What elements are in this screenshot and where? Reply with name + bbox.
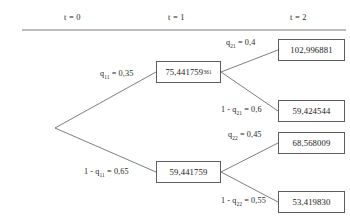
edge-label-down-dd: 1 - q22 = 0,55 <box>221 196 266 205</box>
header-t0: t = 0 <box>64 12 81 22</box>
binomial-tree-figure: t = 0 t = 1 t = 2 75,441759361 59,441759… <box>0 0 350 222</box>
edge-label-up-uu: q21 = 0,4 <box>226 38 255 47</box>
node-du2-value: 68,568009 <box>293 138 331 148</box>
edge-up-uu <box>221 50 278 72</box>
edge-label-down-dd-suffix: = 0,55 <box>242 196 266 205</box>
edge-root-down <box>55 128 156 172</box>
edge-label-root-down-prefix: 1 - q <box>84 167 100 176</box>
edge-label-down-dd-prefix: 1 - q <box>221 196 237 205</box>
node-down1-value: 59,441759 <box>170 167 208 177</box>
edge-down-du <box>221 143 278 172</box>
node-uu2-value: 102,996881 <box>290 45 332 55</box>
edge-label-up-uu-suffix: = 0,4 <box>236 38 256 47</box>
edge-root-up <box>55 72 156 128</box>
edge-label-root-up-suffix: = 0,35 <box>110 69 134 78</box>
edge-label-down-du: q22 = 0,45 <box>228 130 262 139</box>
node-dd2[interactable]: 53,419830 <box>278 191 345 213</box>
edge-label-up-ud: 1 - q21 = 0,6 <box>221 105 262 114</box>
edge-label-root-up: q11 = 0,35 <box>100 69 133 78</box>
node-ud2-value: 59,424544 <box>293 106 331 116</box>
edge-label-down-du-suffix: = 0,45 <box>238 130 262 139</box>
node-down1[interactable]: 59,441759 <box>156 161 221 183</box>
edge-label-up-ud-suffix: = 0,6 <box>242 105 262 114</box>
node-uu2[interactable]: 102,996881 <box>278 39 345 61</box>
edge-label-root-down-suffix: = 0,65 <box>105 167 129 176</box>
edge-label-up-ud-prefix: 1 - q <box>221 105 237 114</box>
header-t2: t = 2 <box>290 12 307 22</box>
header-t1: t = 1 <box>168 12 185 22</box>
node-up1[interactable]: 75,441759361 <box>156 61 221 83</box>
node-ud2[interactable]: 59,424544 <box>278 100 345 122</box>
node-du2[interactable]: 68,568009 <box>278 132 345 154</box>
node-dd2-value: 53,419830 <box>293 197 331 207</box>
edge-label-root-down: 1 - q11 = 0,65 <box>84 167 129 176</box>
node-up1-value: 75,441759 <box>165 67 203 77</box>
